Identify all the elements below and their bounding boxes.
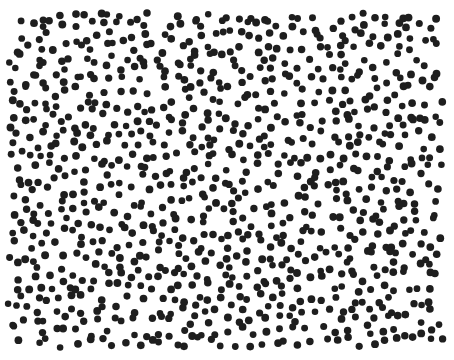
dot [346,142,354,150]
dot [352,299,359,306]
dot [105,74,112,81]
dot [385,313,392,320]
dot [309,141,316,148]
dot [401,332,408,339]
dot [364,321,371,328]
dot [439,335,446,342]
dot [286,214,293,221]
dot [108,250,115,257]
dot [337,162,344,169]
dot [87,131,95,139]
dot [176,20,184,28]
dot [14,276,21,283]
dot [57,344,64,351]
dot [34,264,41,271]
dot [11,211,19,219]
dot [90,238,97,245]
dot [332,107,340,115]
dot [207,74,214,81]
dot [228,301,235,308]
dot [400,268,407,275]
dot [362,195,370,203]
dot [203,296,211,304]
dot [136,76,143,83]
dot [311,253,319,261]
dot [227,48,234,55]
dot [252,19,260,27]
dot [331,244,338,251]
dot [80,178,88,186]
dot [267,64,274,71]
dot [297,298,305,306]
dot [263,203,270,210]
dot [90,125,97,132]
dot [390,287,397,294]
dot [39,329,46,336]
dot [336,213,344,221]
dot [333,187,340,194]
dot [239,236,246,243]
dot [150,154,157,161]
dot [359,299,366,306]
dot [149,139,156,146]
dot [326,97,333,104]
dot [426,154,433,161]
dot [58,21,66,29]
dot [108,162,115,169]
dot [175,250,182,257]
dot [355,288,363,296]
dot [167,196,175,204]
dot [190,105,198,113]
dot [218,286,225,293]
dot [69,272,76,279]
dot [87,285,94,292]
dot [34,179,41,186]
dot [243,273,250,280]
dot [275,160,282,167]
dot [37,202,44,209]
dot [301,208,308,215]
dot [254,151,262,159]
dot [77,310,84,317]
dot [146,133,153,140]
dot [117,66,124,73]
dot [247,143,254,150]
dot [438,162,445,169]
dot-field [0,0,454,360]
dot [316,155,324,163]
dot [134,103,141,110]
dot [65,113,72,120]
dot [159,204,166,211]
dot [105,280,113,288]
dot [95,203,103,211]
dot [277,239,285,247]
dot [399,178,406,185]
dot [384,97,392,105]
dot [390,326,397,333]
dot [350,43,357,50]
dot [421,62,428,69]
dot [187,216,195,224]
dot [339,177,347,185]
dot [52,93,59,100]
dot [116,191,123,198]
dot [287,46,294,53]
dot [24,41,31,48]
dot [141,164,148,171]
dot [390,258,398,266]
dot [53,132,59,138]
dot [269,75,276,82]
dot [360,10,367,17]
dot [371,14,379,22]
dot [267,243,274,250]
dot [293,65,300,72]
dot [199,144,206,151]
dot [99,237,106,244]
dot [116,13,123,20]
dot [12,129,19,136]
dot [180,174,188,182]
dot [270,182,277,189]
dot [337,66,344,73]
dot [407,227,414,234]
dot [20,226,28,234]
